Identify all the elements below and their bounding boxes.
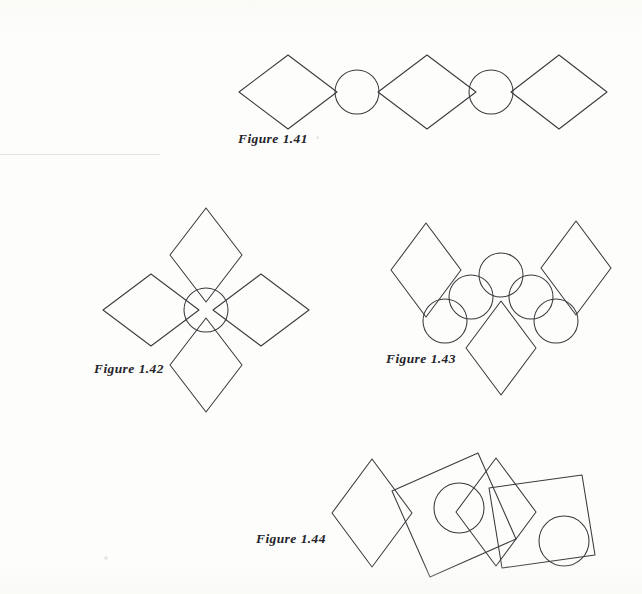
- figure-1-44-shapes: [332, 453, 595, 577]
- caption-label: Figure: [386, 351, 427, 366]
- caption-label: Figure: [94, 361, 135, 376]
- diamond-shape: [332, 459, 412, 567]
- caption-number: 1.42: [135, 361, 164, 376]
- figure-caption-1-44: Figure1.44: [256, 531, 326, 547]
- caption-number: 1.44: [297, 531, 326, 546]
- diamond-shape: [456, 458, 536, 566]
- figure-1-44-drawing: [0, 0, 642, 594]
- caption-number: 1.43: [427, 351, 456, 366]
- caption-number: 1.41: [279, 131, 308, 146]
- figure-caption-1-41: Figure1.41: [238, 131, 308, 147]
- caption-label: Figure: [238, 131, 279, 146]
- figure-caption-1-42: Figure1.42: [94, 361, 164, 377]
- figure-caption-1-43: Figure1.43: [386, 351, 456, 367]
- figure-page: Figure1.41 Figure1.42 Figure1.43 Figure1…: [0, 0, 642, 594]
- caption-label: Figure: [256, 531, 297, 546]
- circle-shape: [539, 516, 589, 566]
